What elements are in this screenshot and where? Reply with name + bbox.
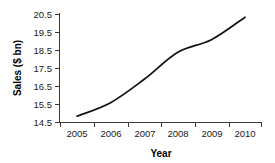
y-tick-label: 16.5 [34,81,53,92]
x-tick-label: 2007 [134,128,155,139]
chart-canvas: 20.5 19.5 18.5 17.5 16.5 15.5 14.5 2005 … [0,0,275,163]
y-tick-label: 15.5 [34,99,53,110]
sales-line-chart: 20.5 19.5 18.5 17.5 16.5 15.5 14.5 2005 … [0,0,275,163]
x-tick-label: 2005 [66,128,87,139]
x-tick-label: 2009 [201,128,222,139]
y-tick-label: 18.5 [34,45,53,56]
x-tick-label: 2006 [100,128,121,139]
y-tick-label: 20.5 [34,9,53,20]
y-axis-title: Sales ($ bn) [12,40,23,96]
x-tick-label: 2010 [234,128,255,139]
y-tick-label: 19.5 [34,27,53,38]
x-axis-title: Year [150,148,171,159]
y-tick-label: 14.5 [34,117,53,128]
x-tick-label: 2008 [167,128,188,139]
y-tick-label: 17.5 [34,63,53,74]
